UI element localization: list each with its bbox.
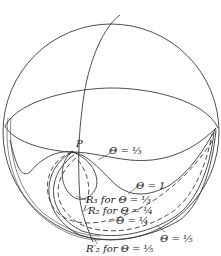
equator-front [5, 126, 70, 152]
label-theta-quarter: Θ = ¼ [116, 216, 149, 226]
label-theta-fifth: Θ = ⅕ [160, 234, 193, 244]
equator-back [5, 88, 218, 128]
point-p-marker [71, 151, 74, 154]
curve-theta-third [72, 128, 216, 161]
rim-curve-1 [7, 118, 100, 240]
sphere-diagram [0, 0, 221, 256]
label-r2prime-theta-fifth: R′₂ for Θ = ⅕ [86, 244, 153, 254]
label-point-p: P [76, 139, 83, 149]
label-theta-one: Θ = 1 [136, 181, 165, 191]
label-r3-theta-third: R₃ for Θ = ⅓ [86, 195, 151, 205]
label-theta-third: Θ = ⅓ [109, 146, 142, 156]
